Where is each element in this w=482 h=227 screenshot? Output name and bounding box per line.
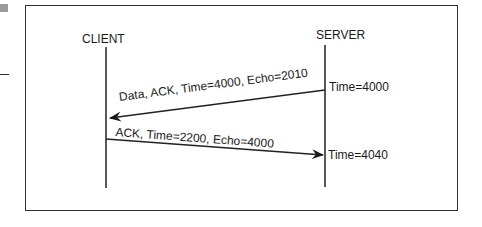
message-2-server-time: Time=4040 <box>328 148 388 162</box>
message-1-server-time: Time=4000 <box>329 80 389 94</box>
sequence-diagram <box>0 0 482 227</box>
client-label: CLIENT <box>82 32 125 46</box>
server-label: SERVER <box>316 28 365 42</box>
